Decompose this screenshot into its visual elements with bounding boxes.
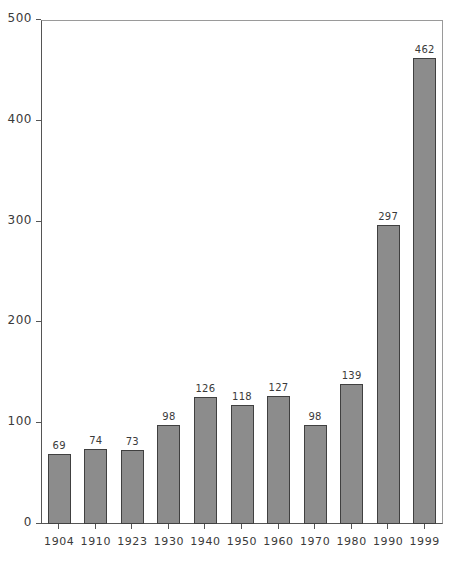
bar	[304, 425, 327, 524]
bar-value-label: 127	[269, 382, 289, 393]
bar	[267, 396, 290, 524]
x-tick-label: 1970	[300, 536, 330, 548]
x-tick-mark	[278, 524, 279, 529]
y-tick-mark	[36, 19, 41, 20]
bar-value-label: 98	[308, 411, 321, 422]
bar-value-label: 462	[415, 44, 435, 55]
y-tick-mark	[36, 221, 41, 222]
bar	[84, 449, 107, 524]
x-tick-label: 1910	[81, 536, 111, 548]
x-tick-mark	[95, 524, 96, 529]
x-tick-label: 1940	[190, 536, 220, 548]
bar-value-label: 297	[378, 211, 398, 222]
x-tick-label: 1904	[44, 536, 74, 548]
bar-value-label: 98	[162, 411, 175, 422]
bar	[194, 397, 217, 524]
x-tick-mark	[241, 524, 242, 529]
y-tick-mark	[36, 523, 41, 524]
y-tick-mark	[36, 422, 41, 423]
bar-value-label: 126	[195, 383, 215, 394]
y-tick-label: 500	[8, 12, 32, 24]
y-tick-label: 100	[8, 415, 32, 427]
x-tick-label: 1923	[117, 536, 147, 548]
x-tick-mark	[58, 524, 59, 529]
x-tick-label: 1960	[263, 536, 293, 548]
y-tick-label: 200	[8, 314, 32, 326]
x-tick-mark	[387, 524, 388, 529]
y-tick-label: 0	[24, 516, 32, 528]
bar	[231, 405, 254, 524]
y-tick-label: 300	[8, 214, 32, 226]
bar	[157, 425, 180, 524]
bar-value-label: 74	[89, 435, 102, 446]
x-tick-mark	[351, 524, 352, 529]
y-tick-label: 400	[8, 113, 32, 125]
x-tick-label: 1980	[336, 536, 366, 548]
x-tick-mark	[314, 524, 315, 529]
x-tick-mark	[131, 524, 132, 529]
x-tick-label: 1999	[410, 536, 440, 548]
x-tick-label: 1990	[373, 536, 403, 548]
bar	[377, 225, 400, 524]
bar-value-label: 139	[342, 370, 362, 381]
bar-value-label: 73	[126, 436, 139, 447]
bar	[413, 58, 436, 524]
bar-value-label: 118	[232, 391, 252, 402]
bar	[48, 454, 71, 524]
y-tick-mark	[36, 321, 41, 322]
bar-chart: 0100200300400500 19041910192319301940195…	[0, 0, 455, 565]
bar-value-label: 69	[53, 440, 66, 451]
x-tick-mark	[204, 524, 205, 529]
x-tick-label: 1950	[227, 536, 257, 548]
x-tick-mark	[168, 524, 169, 529]
y-tick-mark	[36, 120, 41, 121]
x-tick-mark	[424, 524, 425, 529]
x-tick-label: 1930	[154, 536, 184, 548]
bar	[121, 450, 144, 524]
bar	[340, 384, 363, 524]
